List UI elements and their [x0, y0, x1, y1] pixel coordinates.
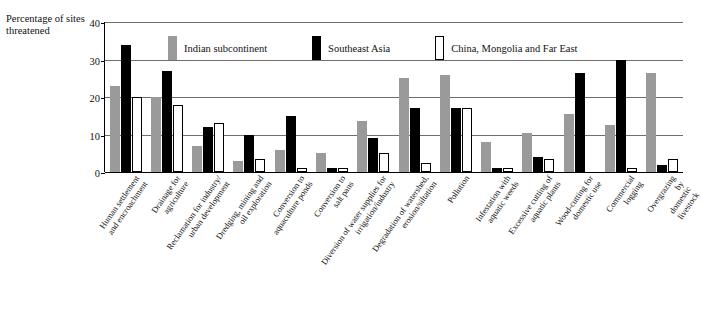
bar	[151, 97, 161, 172]
bar-group	[229, 22, 270, 172]
bar	[379, 153, 389, 172]
bar-group	[188, 22, 229, 172]
bar-group	[518, 22, 559, 172]
bar	[410, 108, 420, 172]
bar	[440, 75, 450, 173]
y-axis-title-line-1: Percentage	[6, 13, 52, 24]
x-axis-label-line: Pollution	[446, 174, 472, 205]
bar-group	[559, 22, 600, 172]
bar	[522, 133, 532, 172]
bar	[214, 123, 224, 172]
bar	[233, 161, 243, 172]
x-axis-label: Pollution	[446, 174, 472, 205]
bar	[462, 108, 472, 172]
bar-group	[270, 22, 311, 172]
bar	[399, 78, 409, 172]
bar-group	[146, 22, 187, 172]
bar	[533, 157, 543, 172]
bar	[203, 127, 213, 172]
bar-group	[642, 22, 683, 172]
bar	[192, 146, 202, 172]
bar	[627, 168, 637, 172]
bar-group	[311, 22, 352, 172]
plot-area: 010203040	[104, 22, 683, 172]
bar	[132, 97, 142, 172]
bar	[605, 125, 615, 172]
y-axis-title: Percentage of sites threatened	[6, 13, 86, 37]
bar	[244, 135, 254, 173]
bar-group	[600, 22, 641, 172]
bar	[255, 159, 265, 172]
bar	[503, 168, 513, 172]
bar	[575, 73, 585, 172]
bar	[316, 153, 326, 172]
bar	[646, 73, 656, 172]
x-axis-label: Overgrazing bydomestic livestock	[646, 174, 702, 231]
x-axis-label: Drainage foragriculture	[150, 174, 191, 221]
bar	[162, 71, 172, 172]
gridline-0: 0	[105, 172, 683, 173]
bar	[616, 60, 626, 173]
bar	[327, 168, 337, 172]
bar-group	[477, 22, 518, 172]
bar	[668, 159, 678, 172]
bar	[657, 165, 667, 173]
bar	[275, 150, 285, 173]
bar	[297, 168, 307, 172]
bar	[357, 121, 367, 172]
bar	[286, 116, 296, 172]
bar-group	[394, 22, 435, 172]
bar	[110, 86, 120, 172]
bar-groups	[105, 22, 683, 172]
bar-group	[105, 22, 146, 172]
bar	[544, 159, 554, 172]
x-axis-labels: Human settlementand encroachmentDrainage…	[104, 174, 682, 311]
bar	[481, 142, 491, 172]
y-axis-title-line-2: of sites	[55, 13, 85, 24]
x-axis-label: Commerciallogging	[605, 174, 645, 220]
y-axis-title-line-3: threatened	[6, 25, 50, 36]
bar-group	[353, 22, 394, 172]
bar-group	[435, 22, 476, 172]
bar	[421, 163, 431, 172]
bar	[564, 114, 574, 172]
x-axis-label: Human settlementand encroachment	[98, 174, 150, 236]
bar	[173, 105, 183, 173]
bar	[121, 45, 131, 173]
bar	[338, 168, 348, 172]
bar	[368, 138, 378, 172]
bar	[492, 168, 502, 172]
bar	[451, 108, 461, 172]
